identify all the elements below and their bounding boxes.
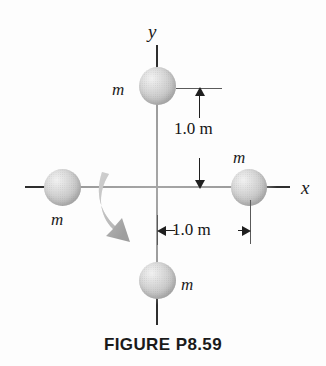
mass-label-left: m: [51, 211, 63, 228]
arrowhead-down-icon: [195, 180, 205, 189]
rotation-direction-arrow: [82, 160, 152, 250]
arrowhead-left-icon: [157, 226, 166, 236]
y-axis-label: y: [148, 22, 156, 41]
dimension-label-vertical: 1.0 m: [174, 120, 213, 137]
mass-sphere-left: [44, 169, 81, 206]
mass-label-right: m: [233, 149, 245, 166]
dimension-label-horizontal: 1.0 m: [172, 221, 211, 238]
arrowhead-up-icon: [195, 87, 205, 96]
figure-caption: FIGURE P8.59: [0, 335, 326, 355]
physics-figure: y x m m m m 1.0 m 1.0 m FIGURE P8.59: [0, 0, 326, 366]
mass-sphere-right: [231, 169, 267, 206]
mass-sphere-top: [139, 67, 176, 105]
arrowhead-right-icon: [242, 226, 251, 236]
extension-line-right: [250, 200, 251, 244]
mass-sphere-bottom: [139, 262, 176, 299]
mass-label-top: m: [112, 81, 124, 98]
mass-label-bottom: m: [181, 276, 193, 293]
x-axis-label: x: [301, 178, 309, 197]
